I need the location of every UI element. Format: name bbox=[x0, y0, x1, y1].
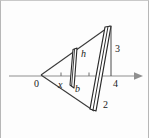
label-x-variable: x bbox=[58, 80, 62, 90]
x-axis-group bbox=[9, 72, 143, 80]
label-value-2: 2 bbox=[103, 100, 108, 110]
slice-4-inner-line bbox=[93, 27, 108, 111]
label-height-h: h bbox=[81, 49, 86, 59]
figure-frame: 0 x h b 3 4 2 bbox=[0, 0, 149, 138]
label-value-4: 4 bbox=[113, 79, 118, 89]
label-value-3: 3 bbox=[115, 44, 120, 54]
label-origin: 0 bbox=[34, 79, 39, 89]
triangle-lower-edge bbox=[41, 75, 94, 111]
triangle-diagram-svg bbox=[1, 1, 149, 138]
x-axis-arrowhead bbox=[134, 72, 143, 80]
label-base-b: b bbox=[75, 84, 80, 94]
